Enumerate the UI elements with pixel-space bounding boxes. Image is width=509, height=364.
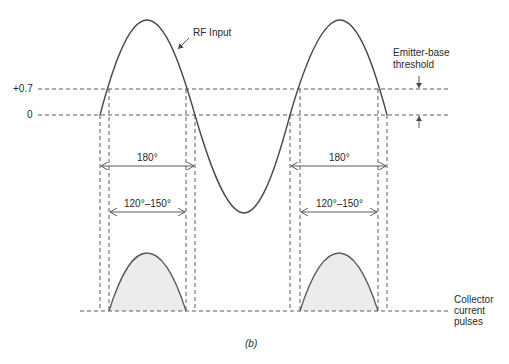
rf-input-waveform (100, 20, 387, 213)
collector-label-line3: pulses (454, 316, 483, 328)
rf-input-pointer (178, 38, 189, 49)
level-plus07-label: +0.7 (13, 83, 33, 95)
threshold-label-line1: Emitter-base (393, 47, 450, 59)
angle-120-150-label-right: 120°–150° (316, 198, 363, 210)
angle-120-150-label-left: 120°–150° (124, 198, 171, 210)
collector-pulse-right (300, 253, 378, 311)
class-c-waveform-figure: RF Input Emitter-base threshold +0.7 0 1… (0, 0, 509, 364)
angle-180-label-right: 180° (329, 152, 350, 164)
level-zero-label: 0 (27, 109, 33, 121)
threshold-label-line2: threshold (393, 59, 434, 71)
rf-input-label: RF Input (193, 27, 231, 39)
angle-180-label-left: 180° (137, 152, 158, 164)
figure-caption: (b) (245, 338, 257, 350)
